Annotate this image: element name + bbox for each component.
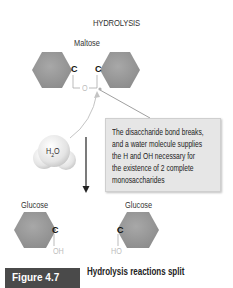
glycosidic-bond-left [73, 75, 80, 88]
maltose-right-carbon: C [95, 64, 102, 74]
water-o: O [54, 146, 60, 156]
explanation-callout: The disaccharide bond breaks, and a wate… [105, 118, 221, 192]
glucose-left-ring [14, 212, 56, 248]
bond-point-icon [98, 87, 101, 90]
maltose-right-ring [100, 52, 140, 88]
reaction-arrowhead-icon [83, 186, 90, 193]
glucose-left-carbon: C [52, 225, 59, 235]
glucose-right-carbon: C [117, 225, 124, 235]
callout-text: The disaccharide bond breaks, and a wate… [112, 126, 221, 186]
callout-pointer [100, 90, 150, 118]
glucose-left-label: Glucose [21, 200, 48, 210]
callout-line: the H and OH necessary for [112, 150, 221, 162]
arrowhead-icon [94, 91, 100, 98]
hydroxyl-group-right: HO [111, 246, 122, 256]
water-to-bond-arrow [70, 93, 97, 138]
figure-caption: Hydrolysis reactions split [87, 266, 184, 277]
water-label: H2O [46, 146, 60, 158]
figure-label: Figure 4.7 [12, 272, 59, 283]
maltose-left-carbon: C [71, 64, 78, 74]
callout-line: monosaccharides [112, 174, 221, 186]
callout-line: and a water molecule supplies [112, 138, 221, 150]
glycosidic-bond-right [89, 75, 97, 88]
bridge-oxygen: O [82, 83, 88, 93]
maltose-left-ring [32, 52, 72, 88]
callout-line: The disaccharide bond breaks, [112, 126, 221, 138]
glucose-right-label: Glucose [125, 200, 152, 210]
hydroxyl-group-left: OH [53, 246, 64, 256]
callout-line: the existence of 2 complete [112, 162, 221, 174]
